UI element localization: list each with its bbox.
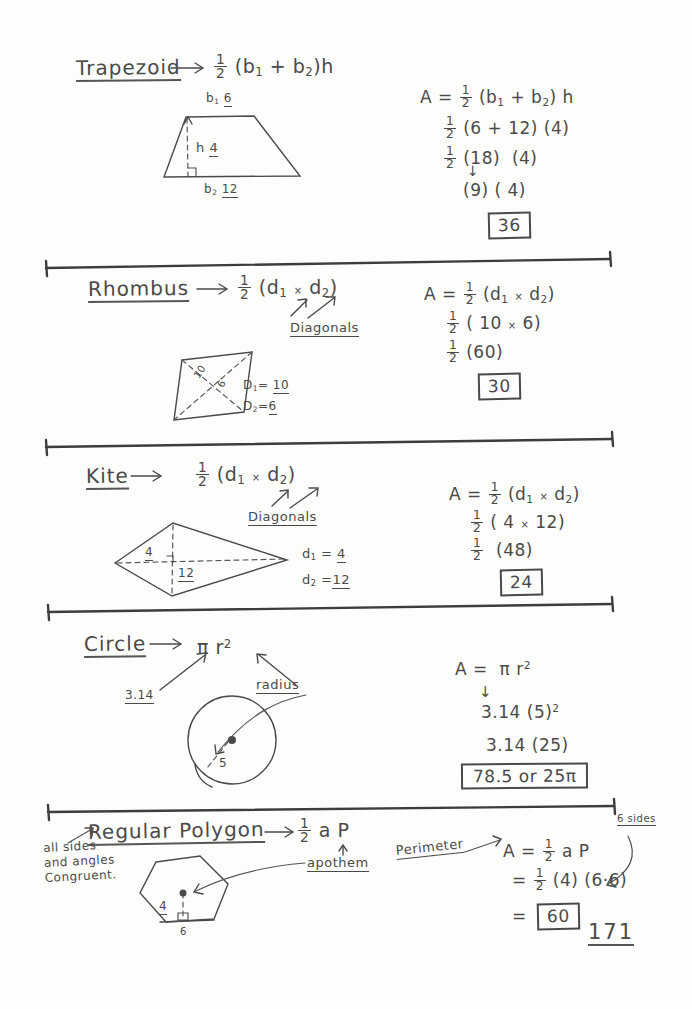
kite-work-line-1: A = 12 (d1 × d2) bbox=[449, 483, 580, 507]
rhombus-answer: 30 bbox=[478, 373, 521, 400]
trapezoid-figure bbox=[164, 116, 300, 177]
polygon-sides-label: 6 sides bbox=[617, 813, 656, 826]
rhombus-d2-value: D2=6 bbox=[243, 399, 277, 414]
kite-diagonals-callout: Diagonals bbox=[248, 509, 317, 526]
divider-1 bbox=[46, 252, 611, 276]
kite-formula: 12 (d1 × d2) bbox=[195, 462, 296, 489]
trapezoid-bottom-base-label: b2 12 bbox=[204, 182, 238, 197]
trapezoid-answer: 36 bbox=[488, 212, 531, 239]
divider-3 bbox=[48, 597, 613, 620]
trapezoid-down-arrow: ↓ bbox=[467, 163, 479, 179]
divider-4 bbox=[48, 799, 615, 820]
trapezoid-work-line-4: (9) ( 4) bbox=[463, 180, 526, 200]
polygon-perimeter-label: Perimeter bbox=[395, 836, 464, 860]
pi-arrow bbox=[160, 655, 205, 690]
kite-d2-value: d2 =12 bbox=[302, 572, 350, 588]
kite-answer: 24 bbox=[500, 569, 543, 596]
kite-horizontal-diagonal-label: 12 bbox=[178, 566, 194, 582]
rhombus-work-line-3: 12 (60) bbox=[446, 341, 503, 365]
circle-formula: π r2 bbox=[197, 636, 232, 658]
page-number: 171 bbox=[588, 920, 634, 944]
kite-work-line-2: 12 ( 4 × 12) bbox=[470, 511, 565, 535]
rhombus-work-line-1: A = 12 (d1 × d2) bbox=[424, 283, 555, 307]
circle-figure bbox=[188, 695, 306, 787]
rhombus-diag1-label: 10 bbox=[191, 363, 208, 380]
polygon-work-line-1: A = 12 a P bbox=[503, 840, 589, 864]
polygon-formula: 12 a P bbox=[297, 818, 349, 845]
section-title-circle: Circle bbox=[84, 631, 146, 658]
circle-work-line-2: 3.14 (5)2 bbox=[481, 702, 560, 722]
rhombus-d1-value: D1= 10 bbox=[243, 378, 289, 393]
circle-work-line-1: A = π r2 bbox=[455, 659, 531, 679]
kite-d1-value: d1 = 4 bbox=[302, 546, 346, 562]
circle-radius-label: radius bbox=[256, 677, 299, 694]
circle-work-line-3: 3.14 (25) bbox=[486, 735, 569, 755]
circle-down-arrow: ↓ bbox=[479, 683, 492, 701]
kite-figure bbox=[115, 523, 287, 596]
rhombus-diag2-label: 6 bbox=[215, 378, 228, 389]
apothem-arrow bbox=[196, 863, 305, 891]
polygon-congruent-note: all sidesand anglesCongruent. bbox=[43, 837, 121, 886]
trapezoid-top-base-label: b1 6 bbox=[206, 91, 232, 106]
circle-radius-value: 5 bbox=[219, 756, 227, 770]
trapezoid-height-label: h 4 bbox=[196, 140, 218, 155]
rhombus-diagonals-callout: Diagonals bbox=[290, 320, 359, 337]
section-title-trapezoid: Trapezoid bbox=[76, 55, 181, 82]
rhombus-figure bbox=[174, 352, 252, 420]
rhombus-work-line-2: 12 ( 10 × 6) bbox=[446, 312, 541, 336]
trapezoid-formula: 12 (b1 + b2)h bbox=[213, 54, 334, 81]
kite-work-line-3: 12 (48) bbox=[470, 539, 533, 563]
circle-pi-label: 3.14 bbox=[125, 688, 154, 704]
perimeter-arrow bbox=[465, 840, 500, 852]
polygon-work-line-2: = 12 (4) (6·6) bbox=[512, 869, 627, 893]
polygon-work-line-3: = 60 bbox=[512, 903, 579, 930]
trapezoid-work-line-2: 12 (6 + 12) (4) bbox=[443, 117, 569, 141]
section-title-rhombus: Rhombus bbox=[88, 276, 189, 303]
circle-answer: 78.5 or 25π bbox=[461, 763, 588, 789]
trapezoid-work-line-1: A = 12 (b1 + b2) h bbox=[420, 86, 574, 110]
notebook-page: Trapezoid 12 (b1 + b2)h b1 6 h 4 b2 12 A… bbox=[0, 0, 692, 1009]
diagonals-arrow-kite bbox=[272, 488, 318, 508]
kite-vertical-diagonal-label: 4 bbox=[145, 545, 153, 561]
trapezoid-work-line-3: 12 (18) (4) bbox=[443, 147, 538, 171]
polygon-side-value: 6 bbox=[180, 926, 187, 937]
hexagon-figure bbox=[140, 856, 228, 922]
rhombus-formula: 12 (d1 × d2) bbox=[237, 275, 338, 302]
section-title-kite: Kite bbox=[86, 464, 129, 490]
divider-2 bbox=[46, 432, 613, 455]
polygon-apothem-value: 4 bbox=[159, 899, 167, 915]
polygon-apothem-label: apothem bbox=[307, 855, 369, 872]
